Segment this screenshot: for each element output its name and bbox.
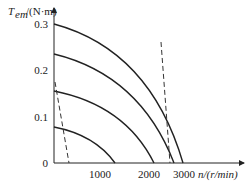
ytick-0: 0 [43, 157, 49, 169]
y-axis-label-unit: /(N·m) [26, 5, 57, 18]
xtick-1000: 1000 [89, 168, 112, 180]
curve-2 [54, 54, 174, 163]
plot: 0 0.1 0.2 0.3 1000 2000 3000 n/(r/min) T… [0, 0, 252, 188]
chart: 0 0.1 0.2 0.3 1000 2000 3000 n/(r/min) T… [0, 0, 252, 188]
xtick-2000: 2000 [138, 168, 161, 180]
curve-4 [54, 127, 115, 163]
curve-1 [54, 24, 183, 163]
ytick-0.1: 0.1 [34, 111, 48, 123]
ytick-0.3: 0.3 [34, 18, 48, 30]
curve-3 [54, 91, 154, 163]
ytick-0.2: 0.2 [34, 64, 48, 76]
xtick-3000: 3000 [173, 168, 196, 180]
x-axis-label: n/(r/min) [198, 168, 238, 181]
y-axis-label-T: T [8, 5, 15, 17]
